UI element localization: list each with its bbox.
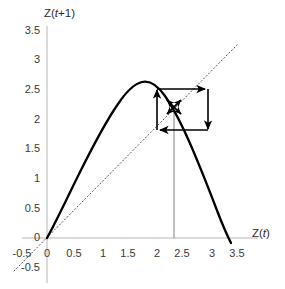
- cobweb-plot-figure: 3.5 3 2.5 2 1.5 1 0.5 0 -0.5 -0.5 0 0.5 …: [0, 0, 285, 289]
- y-axis-title-prefix: Z(: [44, 7, 55, 19]
- x-tick-label: 0: [38, 248, 56, 259]
- y-tick-label: 2: [18, 114, 40, 125]
- x-tick-label: 1.5: [116, 248, 140, 259]
- x-tick-label: 1: [94, 248, 112, 259]
- x-tick-label: 2.5: [170, 248, 194, 259]
- chart-canvas: [0, 0, 285, 289]
- x-tick-label: 3: [203, 248, 221, 259]
- map-curve: [47, 82, 231, 243]
- x-tick-label: 2: [148, 248, 166, 259]
- x-tick-label: -0.5: [8, 248, 36, 259]
- x-tick-label: 3.5: [225, 248, 249, 259]
- x-axis-title-suffix: ): [266, 227, 270, 239]
- y-axis-title: Z(t+1): [44, 8, 75, 20]
- y-tick-label: 3.5: [18, 25, 40, 36]
- y-axis-title-suffix: +1): [58, 7, 75, 19]
- y-tick-label: -0.5: [14, 262, 40, 273]
- y-tick-label: 2.5: [18, 84, 40, 95]
- x-axis-title-prefix: Z(: [252, 227, 263, 239]
- y-tick-label: 3: [18, 54, 40, 65]
- y-tick-label: 0: [18, 232, 40, 243]
- y-tick-label: 0.5: [18, 203, 40, 214]
- y-tick-label: 1: [18, 173, 40, 184]
- x-axis-title: Z(t): [252, 228, 270, 240]
- y-tick-label: 1.5: [18, 143, 40, 154]
- x-tick-label: 0.5: [62, 248, 86, 259]
